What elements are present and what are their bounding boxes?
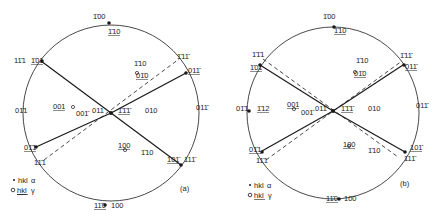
pole-marker-dot — [184, 71, 188, 75]
legend-b-alpha-text: hkl — [254, 181, 264, 190]
pole-label-alpha: 1̄1̄1 — [252, 50, 265, 59]
gamma-circle-icon — [11, 188, 15, 192]
center-pole-dot — [109, 111, 113, 115]
pole-label-alpha: 1̄11̄ — [177, 52, 190, 61]
panel-label-a: (a) — [180, 184, 190, 193]
pole-label-alpha: 1̄00 — [93, 12, 106, 21]
pole-marker-dot — [337, 197, 341, 201]
pole-marker-dot — [34, 145, 38, 149]
pole-label-gamma: 011̄ — [405, 62, 418, 71]
pole-marker-dot — [332, 25, 336, 29]
projection-b: 1̄001̄101̄1̄11̄011̄1001̄01̄11̄011̄01̄11̄… — [236, 12, 429, 203]
pole-label-alpha: 011̄ — [416, 101, 429, 110]
gamma-circle-icon — [248, 193, 252, 197]
pole-label-alpha: 011 — [315, 104, 327, 113]
projection-a: 1̄001̄1011̄11̄011̄1001̄01̄11̄011̄01̄1001… — [14, 12, 209, 210]
stereographic-projection-diagram: 1̄001̄1011̄11̄011̄1001̄01̄11̄011̄01̄1001… — [0, 0, 442, 219]
legend-b-gamma-symbol: γ — [268, 191, 272, 200]
solid-trace-line — [262, 111, 333, 151]
pole-label-alpha: 100 — [344, 194, 357, 203]
pole-label-alpha: 01̄1 — [236, 104, 249, 113]
solid-trace-line — [36, 113, 111, 147]
pole-marker-dot — [247, 109, 251, 113]
pole-label-gamma: 1̄10 — [334, 26, 347, 35]
pole-label-alpha: 011 — [92, 106, 104, 115]
pole-label-alpha: 1̄10 — [356, 56, 369, 65]
pole-label-gamma: 101̄ — [410, 143, 424, 152]
legend-a: hkl α hkl γ — [11, 176, 36, 195]
legend-a-gamma-text: hkl — [17, 186, 27, 195]
pole-marker-dot — [260, 150, 264, 154]
legend-a-alpha-text: hkl — [18, 176, 28, 185]
legend-b-alpha-symbol: α — [267, 181, 272, 190]
pole-label-alpha: 011̄ — [196, 103, 209, 112]
pole-marker-dot — [403, 150, 407, 154]
pole-label-alpha: 1̄10 — [368, 146, 381, 155]
pole-label-gamma: 101̄ — [167, 155, 181, 164]
pole-label-alpha: 111̄ — [184, 155, 196, 164]
pole-label-alpha: 001̄ — [76, 109, 90, 118]
alpha-dot-icon — [249, 184, 251, 186]
pole-label-gamma: 1̄12 — [257, 104, 270, 113]
pole-marker-dot — [402, 63, 406, 67]
pole-marker-dot — [179, 163, 183, 167]
pole-label-gamma: 01̄0 — [136, 71, 149, 80]
panel-label-b: (b) — [400, 179, 410, 188]
legend-a-alpha-symbol: α — [31, 176, 36, 185]
pole-marker-dot — [40, 59, 44, 63]
pole-label-alpha: 1̄11̄ — [400, 51, 413, 60]
center-pole-dot — [331, 109, 335, 113]
pole-label-alpha: 010 — [368, 104, 381, 113]
pole-label-gamma: 01̄1 — [249, 145, 262, 154]
pole-marker-dot — [107, 21, 111, 25]
legend-a-gamma-symbol: γ — [31, 186, 35, 195]
pole-label-alpha: 001̄ — [301, 108, 315, 117]
pole-label-alpha: 100 — [111, 201, 124, 210]
pole-label-gamma: 1̄10 — [108, 27, 121, 36]
pole-label-alpha: 01̄1 — [15, 106, 28, 115]
pole-marker-dot — [258, 63, 262, 67]
pole-label-gamma: 011̄ — [188, 66, 201, 75]
pole-label-alpha: 1̄10 — [141, 148, 154, 157]
legend-b: hkl α hkl γ — [248, 181, 272, 200]
pole-label-alpha: 11̄1 — [34, 158, 46, 167]
pole-label-alpha: 1̄00 — [323, 12, 336, 21]
pole-label-alpha: 11̄1 — [256, 156, 268, 165]
pole-label-gamma: 1̄1̄1̄ — [118, 106, 132, 115]
pole-label-alpha: 010 — [145, 106, 158, 115]
pole-label-alpha: 1̄10 — [134, 59, 147, 68]
pole-label-alpha: 11̄1 — [14, 56, 26, 65]
alpha-dot-icon — [13, 179, 15, 181]
gamma-pole-circle-icon — [71, 105, 74, 108]
pole-marker-dot — [103, 203, 107, 207]
pole-label-alpha: 111̄ — [404, 154, 416, 163]
pole-label-gamma: 1̄1̄1̄ — [341, 104, 355, 113]
pole-label-gamma: 001 — [53, 102, 66, 111]
legend-b-gamma-text: hkl — [254, 191, 264, 200]
pole-label-gamma: 11̄0 — [326, 194, 338, 203]
